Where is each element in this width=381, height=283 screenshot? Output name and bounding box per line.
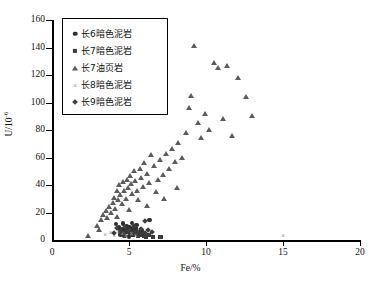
data-point [129,191,135,196]
data-point [121,188,127,193]
data-point [138,226,144,232]
data-point [118,232,123,237]
legend: 长6暗色泥岩长7暗色泥岩长7油页岩×长8暗色泥岩长9暗色泥岩 [62,18,168,115]
data-point [147,233,151,237]
data-point [142,230,148,236]
data-point [125,185,131,190]
data-point [140,229,144,233]
data-point [114,188,120,193]
data-point [163,151,169,156]
data-point [100,212,106,217]
data-point: × [129,231,134,236]
data-point [121,221,126,226]
data-point [191,43,197,48]
x-tick-mark [206,240,207,246]
circle-marker-icon [69,29,81,39]
circle-glyph [73,31,78,36]
data-point [123,228,128,233]
y-tick-label: 0 [5,235,45,245]
data-point: × [116,229,121,234]
data-point [103,208,109,213]
data-point [166,166,172,171]
data-point [129,231,134,236]
data-point [140,184,146,189]
data-point [175,140,181,145]
y-axis-title-exponent: -6 [2,112,10,118]
data-point [131,233,135,237]
data-point [183,130,189,135]
data-point [136,232,141,237]
data-point [144,235,148,239]
legend-item-2[interactable]: 长7暗色泥岩 [69,42,167,59]
data-point [151,163,157,168]
data-point [134,188,140,193]
data-point [126,229,131,234]
data-point [111,230,117,236]
data-point [135,231,140,236]
data-point [141,160,147,165]
data-point [121,231,125,235]
data-point [112,206,118,211]
x-tick-label: 0 [32,248,72,258]
data-point [120,227,125,232]
data-point [126,227,132,233]
data-point [142,234,146,238]
data-point [115,225,121,231]
x-tick-label: 10 [186,248,226,258]
x-tick-mark [360,240,361,246]
data-point [186,105,192,110]
y-axis-title-base: U/10 [4,118,14,137]
diamond-marker-icon [69,97,81,107]
x-tick-label: 5 [109,248,149,258]
data-point: × [108,230,113,235]
data-point [130,221,135,226]
triangle-glyph [72,65,78,70]
data-point [137,166,143,171]
data-point [144,171,150,176]
y-axis-title: U/10-6 [2,94,14,154]
data-point [145,228,151,234]
data-point [130,227,135,232]
data-point [188,93,194,98]
data-point [146,180,152,185]
legend-item-4[interactable]: ×长8暗色泥岩 [69,76,167,93]
data-point [151,235,155,239]
data-point [124,177,130,182]
square-marker-icon [69,46,81,56]
data-point [118,229,122,233]
data-point [135,229,141,235]
data-point [202,111,208,116]
data-point [155,177,161,182]
legend-label: 长8暗色泥岩 [81,78,132,91]
data-point [110,200,116,205]
data-point [174,185,180,190]
data-point [215,65,221,70]
data-point [127,173,133,178]
legend-item-3[interactable]: 长7油页岩 [69,59,167,76]
data-point [114,222,119,227]
x-tick-label: 20 [340,248,380,258]
data-point [140,232,145,237]
cross-glyph: × [73,82,78,87]
data-point: × [112,233,117,238]
data-point [111,195,117,200]
data-point [243,94,249,99]
legend-item-5[interactable]: 长9暗色泥岩 [69,93,167,110]
data-point [149,229,155,235]
data-point [98,217,104,222]
data-point [195,120,201,125]
data-point [126,207,132,212]
data-point [136,234,140,238]
legend-item-1[interactable]: 长6暗色泥岩 [69,25,167,42]
data-point [169,146,175,151]
data-point [160,172,166,177]
legend-label: 长9暗色泥岩 [81,95,132,108]
data-point: × [120,231,125,236]
data-point: × [281,233,286,238]
data-point [249,113,255,118]
data-point [147,218,152,223]
x-tick-mark [129,240,130,246]
data-point [220,116,226,121]
data-point [122,224,128,230]
data-point [153,189,159,194]
